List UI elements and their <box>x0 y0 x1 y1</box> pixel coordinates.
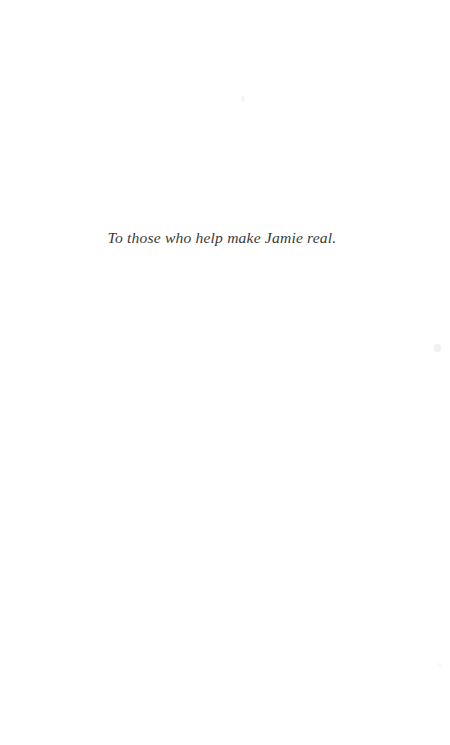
scan-speck-icon <box>434 344 441 352</box>
dedication-page: To those who help make Jamie real. <box>0 0 450 745</box>
scan-speck-icon <box>437 662 442 667</box>
scan-speck-icon <box>241 96 245 102</box>
dedication-text: To those who help make Jamie real. <box>0 228 450 247</box>
